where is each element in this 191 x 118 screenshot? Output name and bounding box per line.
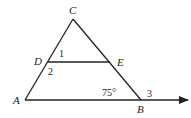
geometry-diagram: C D E A B 1 2 3 75° — [0, 0, 191, 118]
side-AC — [25, 19, 73, 100]
angle-3-label: 3 — [147, 88, 152, 99]
label-D: D — [33, 55, 42, 67]
label-A: A — [12, 94, 20, 106]
angle-1-label: 1 — [59, 48, 64, 59]
label-E: E — [116, 56, 124, 68]
label-C: C — [69, 4, 77, 16]
angle-B-label: 75° — [102, 87, 116, 98]
label-B: B — [137, 103, 144, 115]
angle-2-label: 2 — [48, 66, 53, 77]
